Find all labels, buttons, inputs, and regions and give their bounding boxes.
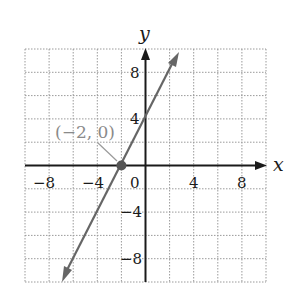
x-axis-label: x (273, 153, 284, 175)
axes (25, 48, 267, 282)
x-tick-label: 4 (189, 174, 199, 192)
y-tick-label: −8 (120, 250, 142, 268)
coordinate-plane: (−2, 0) y x −8 −4 0 4 8 8 4 −4 −8 (0, 0, 294, 297)
point-label: (−2, 0) (55, 122, 115, 142)
y-tick-label: 4 (130, 110, 140, 128)
y-axis-label: y (138, 22, 150, 44)
point-marker (116, 161, 126, 171)
y-tick-label: 8 (130, 64, 140, 82)
line-arrow-bottom-icon (62, 266, 72, 282)
x-tick-label: −4 (82, 174, 104, 192)
y-axis-arrow-icon (141, 48, 150, 60)
annotation-leader (98, 143, 117, 161)
x-tick-label: 0 (130, 174, 140, 192)
x-axis-arrow-icon (255, 161, 267, 170)
x-tick-label: 8 (237, 174, 247, 192)
x-tick-label: −8 (33, 174, 55, 192)
y-tick-label: −4 (120, 203, 142, 221)
